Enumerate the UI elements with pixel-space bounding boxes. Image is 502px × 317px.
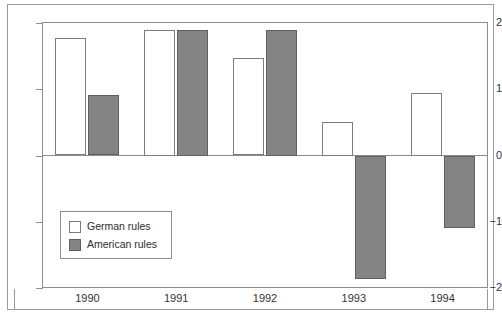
bar-chart-figure: 210−1−2 19901991199219931994 German rule…: [0, 0, 502, 317]
x-tick-label: 1993: [342, 293, 366, 304]
legend-item-american: American rules: [69, 236, 171, 253]
legend-label: American rules: [87, 239, 157, 250]
bar-1992-german: [233, 58, 264, 155]
x-tick-label: 1994: [430, 293, 454, 304]
legend-label: German rules: [87, 221, 151, 232]
gray-square-icon: [69, 239, 81, 251]
x-tick-label: 1991: [164, 293, 188, 304]
x-tick-label: 1992: [253, 293, 277, 304]
white-square-icon: [69, 221, 81, 233]
bar-1992-american: [266, 30, 297, 156]
y-tick-mark: [36, 156, 43, 157]
y-tick-mark: [36, 288, 43, 289]
legend-item-german: German rules: [69, 218, 171, 235]
x-tick-label: 1990: [75, 293, 99, 304]
bar-1990-american: [88, 95, 119, 156]
chart-legend: German rules American rules: [60, 211, 172, 259]
bar-1994-german: [411, 93, 442, 156]
y-tick-mark: [36, 222, 43, 223]
bar-1991-german: [144, 30, 175, 156]
bar-1990-german: [55, 38, 86, 155]
bar-1994-american: [444, 156, 475, 229]
y-tick-mark: [36, 89, 43, 90]
bar-1993-german: [322, 122, 353, 155]
bar-1991-american: [177, 30, 208, 156]
y-tick-mark: [36, 23, 43, 24]
bar-1993-american: [355, 156, 386, 279]
